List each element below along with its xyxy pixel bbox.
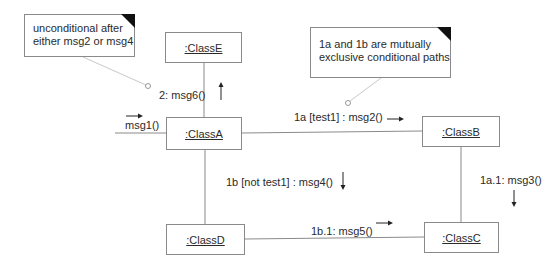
- message-msg5: 1b.1: msg5(): [311, 225, 373, 237]
- note-mutually-exclusive: 1a and 1b are mutually exclusive conditi…: [310, 27, 451, 78]
- note-text-line: 1a and 1b are mutually: [319, 38, 442, 51]
- object-classB[interactable]: :ClassB: [422, 116, 500, 147]
- arrow-down-icon: [341, 172, 346, 190]
- message-msg6: 2: msg6(): [159, 89, 205, 101]
- note1-connector: [83, 57, 146, 85]
- message-msg3: 1a.1: msg3(): [480, 174, 542, 186]
- arrow-right-icon: [387, 117, 404, 122]
- arrow-right-icon: [376, 221, 393, 226]
- arrow-right-icon: [126, 114, 143, 119]
- message-msg4: 1b [not test1] : msg4(): [226, 176, 333, 188]
- object-label: :ClassE: [185, 42, 223, 54]
- folded-corner-icon: [437, 27, 451, 41]
- object-classC[interactable]: :ClassC: [424, 222, 499, 253]
- note-text-line: exclusive conditional paths: [319, 51, 442, 64]
- note1-anchor-icon: [146, 84, 151, 89]
- note-text-line: either msg2 or msg4: [33, 35, 126, 48]
- object-label: :ClassA: [185, 128, 223, 140]
- object-classA[interactable]: :ClassA: [166, 117, 242, 150]
- link-d-c: [245, 237, 424, 239]
- note2-connector: [350, 78, 381, 101]
- note-unconditional: unconditional after either msg2 or msg4: [24, 14, 135, 57]
- link-a-b: [242, 131, 422, 133]
- message-msg1: msg1(): [125, 119, 159, 131]
- arrow-down-icon: [512, 190, 517, 207]
- note-text-line: unconditional after: [33, 22, 126, 35]
- folded-corner-icon: [121, 14, 135, 28]
- object-classE[interactable]: :ClassE: [165, 32, 242, 63]
- object-label: :ClassC: [442, 232, 481, 244]
- communication-diagram: unconditional after either msg2 or msg4 …: [0, 0, 557, 269]
- object-classD[interactable]: :ClassD: [166, 224, 245, 255]
- message-msg2: 1a [test1] : msg2(): [294, 111, 383, 123]
- note2-anchor-icon: [346, 101, 351, 106]
- object-label: :ClassD: [186, 234, 225, 246]
- arrow-up-icon: [219, 82, 224, 100]
- object-label: :ClassB: [442, 126, 480, 138]
